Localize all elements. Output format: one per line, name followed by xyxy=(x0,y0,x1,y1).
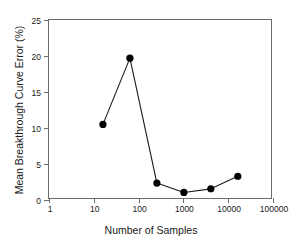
y-axis-tick-label: 10 xyxy=(32,125,41,134)
data-series-layer xyxy=(49,20,273,200)
x-axis-tick-label: 1 xyxy=(48,205,53,214)
x-axis-tick-label: 100 xyxy=(133,205,147,214)
chart-figure: 0510152025 110100100010000100000 Number … xyxy=(0,0,302,248)
x-axis-tick-label: 1000 xyxy=(175,205,194,214)
x-axis-tick-label: 100000 xyxy=(260,205,288,214)
x-axis-tick: 1 xyxy=(49,198,50,203)
y-axis-tick: 10 xyxy=(44,128,49,129)
series-line xyxy=(103,58,238,192)
y-axis-tick: 20 xyxy=(44,56,49,57)
data-point xyxy=(99,121,106,128)
plot-area: 0510152025 110100100010000100000 xyxy=(48,19,272,199)
series-markers xyxy=(99,55,241,196)
data-point xyxy=(234,173,241,180)
y-axis-tick: 25 xyxy=(44,20,49,21)
y-axis-tick: 5 xyxy=(44,164,49,165)
x-axis-tick-label: 10 xyxy=(90,205,99,214)
y-axis-tick-label: 25 xyxy=(32,17,41,26)
data-point xyxy=(153,179,160,186)
x-axis-tick: 100000 xyxy=(273,198,274,203)
x-axis-title: Number of Samples xyxy=(0,224,302,236)
y-axis-tick-label: 5 xyxy=(36,161,41,170)
y-axis-tick-label: 20 xyxy=(32,53,41,62)
data-point xyxy=(207,185,214,192)
y-axis-tick-label: 15 xyxy=(32,89,41,98)
data-point xyxy=(126,55,133,62)
data-point xyxy=(180,189,187,196)
x-axis-tick: 10000 xyxy=(228,198,229,203)
y-axis-tick: 15 xyxy=(44,92,49,93)
x-axis-tick: 100 xyxy=(139,198,140,203)
y-axis-tick-label: 0 xyxy=(36,197,41,206)
x-axis-tick-label: 10000 xyxy=(217,205,241,214)
x-axis-tick: 10 xyxy=(94,198,95,203)
x-axis-tick: 1000 xyxy=(183,198,184,203)
y-axis-title: Mean Breakthrough Curve Error (%) xyxy=(13,12,25,208)
